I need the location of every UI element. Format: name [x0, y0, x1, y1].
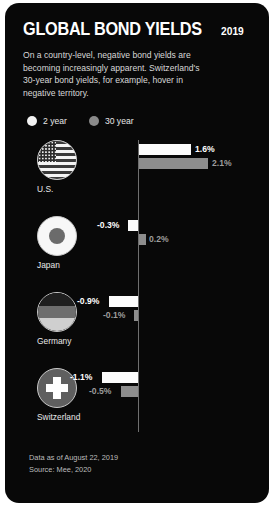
title-row: GLOBAL BOND YIELDS 2019: [23, 19, 251, 40]
page-title: GLOBAL BOND YIELDS: [23, 19, 202, 40]
value-japan-30-year: 0.2%: [149, 234, 169, 245]
infographic-card: GLOBAL BOND YIELDS 2019 On a country-lev…: [5, 3, 269, 503]
legend-item-2-year[interactable]: 2 year: [27, 116, 67, 126]
footer-data-date: Data as of August 22, 2019: [29, 452, 118, 463]
chart-group-switzerland: Switzerland -1.1% -0.5%: [5, 362, 269, 437]
legend-label-30-year: 30 year: [105, 116, 134, 126]
bar-switzerland-30-year: [121, 386, 138, 397]
value-us-30-year: 2.1%: [212, 158, 232, 169]
legend-circle-30-year-icon: [89, 116, 99, 126]
bar-germany-2-year: [109, 296, 138, 307]
footer-source: Source: Mee, 2020: [29, 464, 118, 475]
bar-us-30-year: [139, 158, 208, 169]
legend-item-30-year[interactable]: 30 year: [89, 116, 134, 126]
bar-germany-30-year: [134, 310, 138, 321]
legend-circle-2-year-icon: [27, 116, 37, 126]
bar-japan-30-year: [139, 234, 146, 245]
country-label-japan: Japan: [37, 260, 107, 270]
intro-paragraph: On a country-level, negative bond yields…: [23, 49, 208, 100]
value-germany-2-year: -0.9%: [77, 296, 99, 307]
chart-group-germany: Germany -0.9% -0.1%: [5, 286, 269, 361]
country-label-germany: Germany: [37, 336, 107, 346]
value-us-2-year: 1.6%: [195, 144, 215, 155]
bar-switzerland-2-year: [102, 372, 138, 383]
value-germany-30-year: -0.1%: [103, 310, 125, 321]
chart-group-japan: Japan -0.3% 0.2%: [5, 210, 269, 285]
footer: Data as of August 22, 2019 Source: Mee, …: [29, 452, 118, 475]
chart-group-us: U.S. 1.6% 2.1%: [5, 134, 269, 209]
bond-yield-chart: U.S. 1.6% 2.1% Japan -0.3% 0.2% Germany …: [5, 134, 269, 434]
flag-germany-icon: [37, 292, 77, 332]
bar-us-2-year: [139, 144, 191, 155]
value-japan-2-year: -0.3%: [97, 220, 119, 231]
flag-united-states-icon: [37, 140, 77, 180]
flag-japan-icon: [37, 216, 77, 256]
value-switzerland-2-year: -1.1%: [70, 372, 92, 383]
chart-legend: 2 year 30 year: [27, 116, 269, 126]
legend-label-2-year: 2 year: [43, 116, 67, 126]
country-label-switzerland: Switzerland: [37, 412, 107, 422]
title-year: 2019: [221, 25, 244, 37]
value-switzerland-30-year: -0.5%: [89, 386, 111, 397]
header: GLOBAL BOND YIELDS 2019 On a country-lev…: [5, 3, 269, 100]
bar-japan-2-year: [128, 220, 138, 231]
country-label-us: U.S.: [37, 184, 107, 194]
